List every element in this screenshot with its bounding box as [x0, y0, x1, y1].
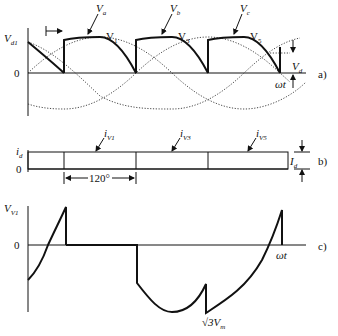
panel-c-zero: 0: [14, 239, 20, 251]
iv3-pointer-icon: [172, 138, 180, 151]
iv5-pointer-icon: [248, 138, 256, 151]
panel-c-x-label: ωt: [276, 249, 288, 261]
current-box: [28, 152, 288, 169]
panel-b-zero: 0: [16, 163, 22, 175]
panel-a-voltage-waveform: Vd1 0 Va Vb Vc V1 V3 V5 Vd ωt a): [4, 2, 327, 116]
panel-a-zero: 0: [14, 67, 20, 79]
panel-c-y-label: VV1: [4, 202, 19, 217]
output-voltage-segment-v1: [64, 37, 136, 73]
device-v5-label: V5: [250, 30, 262, 45]
iv5-label: iV5: [256, 127, 267, 142]
panel-a-x-label: ωt: [275, 78, 287, 90]
panel-a-y-label: Vd1: [4, 32, 18, 47]
phase-b-pointer-icon: [162, 14, 172, 34]
vv1-segment-1: [28, 207, 66, 280]
panel-c-thyristor-voltage: VV1 0 ωt √3Vm c): [4, 202, 327, 331]
panel-a-label: a): [318, 68, 327, 81]
phase-c-pointer-icon: [234, 14, 242, 34]
phase-a-pointer-icon: [88, 14, 98, 34]
peak-label: √3Vm: [202, 316, 225, 331]
output-voltage-segment-v3: [136, 37, 208, 73]
output-voltage-segment-1: [28, 42, 64, 73]
device-v3-label: V3: [178, 30, 190, 45]
panel-b-current-waveform: id 0 iV1 iV3 iV5 120° Id b): [16, 127, 328, 184]
panel-c-label: c): [318, 240, 327, 253]
iv1-pointer-icon: [96, 138, 104, 151]
rectifier-waveform-diagram: Vd1 0 Va Vb Vc V1 V3 V5 Vd ωt a) id 0 iV…: [0, 0, 338, 336]
iv3-label: iV3: [180, 127, 191, 142]
vv1-segment-2: [66, 210, 282, 313]
iv1-label: iV1: [104, 127, 115, 142]
panel-b-label: b): [318, 155, 328, 168]
id-label: Id: [289, 155, 298, 170]
output-voltage-segment-v5: [208, 37, 280, 73]
panel-b-y-label: id: [16, 145, 23, 160]
angle-label: 120°: [89, 172, 110, 184]
device-v1-label: V1: [106, 30, 118, 45]
